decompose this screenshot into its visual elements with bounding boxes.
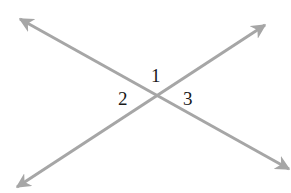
- intersecting-lines-diagram: 1 2 3: [0, 0, 291, 193]
- line-a: [20, 19, 289, 169]
- lines-svg: [0, 0, 291, 193]
- angle-2-label: 2: [118, 89, 128, 108]
- angle-3-label: 3: [183, 89, 193, 108]
- line-b: [17, 25, 265, 187]
- angle-1-label: 1: [151, 66, 161, 85]
